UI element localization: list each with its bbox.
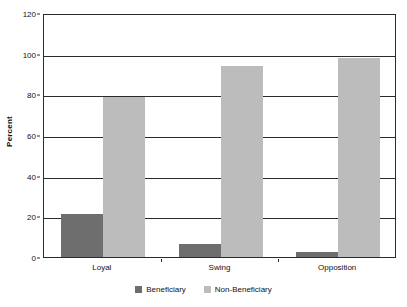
bar-loyal-beneficiary <box>61 214 103 257</box>
y-tick-label: 60 <box>27 132 36 141</box>
y-axis-title-text: Percent <box>5 116 14 147</box>
legend-label: Beneficiary <box>146 285 186 294</box>
legend-item-beneficiary[interactable]: Beneficiary <box>135 285 186 294</box>
y-axis-ticks: 020406080100120 <box>16 14 40 258</box>
bars-layer <box>44 15 395 257</box>
y-tick-label: 20 <box>27 213 36 222</box>
legend-label: Non-Beneficiary <box>215 285 272 294</box>
legend-item-non-beneficiary[interactable]: Non-Beneficiary <box>204 285 272 294</box>
y-tick-mark <box>37 95 40 96</box>
legend-swatch-icon <box>135 286 142 293</box>
bar-loyal-non-beneficiary <box>103 97 145 257</box>
plot-area <box>43 14 396 258</box>
x-axis-label-opposition: Opposition <box>318 263 356 272</box>
y-tick-mark <box>37 217 40 218</box>
x-tick-mark <box>278 259 279 262</box>
bar-swing-beneficiary <box>179 244 221 257</box>
y-tick-mark <box>37 14 40 15</box>
y-tick-label: 120 <box>23 10 36 19</box>
x-axis-label-swing: Swing <box>209 263 231 272</box>
x-axis-label-loyal: Loyal <box>92 263 111 272</box>
legend-swatch-icon <box>204 286 211 293</box>
y-tick-mark <box>37 176 40 177</box>
x-axis: LoyalSwingOpposition <box>43 259 396 277</box>
y-tick-mark <box>37 136 40 137</box>
bar-chart: Percent 020406080100120 LoyalSwingOpposi… <box>0 0 407 307</box>
y-tick-mark <box>37 54 40 55</box>
bar-opposition-non-beneficiary <box>338 58 380 257</box>
bar-opposition-beneficiary <box>296 252 338 257</box>
bar-swing-non-beneficiary <box>221 66 263 257</box>
y-tick-mark <box>37 258 40 259</box>
y-tick-label: 100 <box>23 50 36 59</box>
y-tick-label: 40 <box>27 172 36 181</box>
chart-legend: BeneficiaryNon-Beneficiary <box>0 282 407 296</box>
x-tick-mark <box>161 259 162 262</box>
y-tick-label: 0 <box>32 254 36 263</box>
y-tick-label: 80 <box>27 91 36 100</box>
